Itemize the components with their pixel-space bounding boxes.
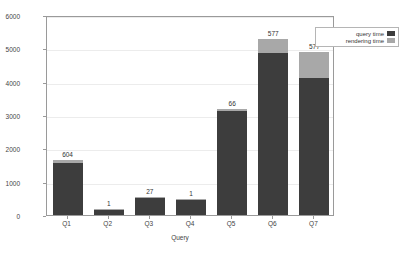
x-tick-mark xyxy=(190,216,191,219)
bar-segment-rendering-time xyxy=(53,160,83,163)
y-tick-label: 5000 xyxy=(0,46,20,53)
legend: query time rendering time xyxy=(315,27,399,47)
bar-value-label: 66 xyxy=(229,100,236,107)
bar-value-label: 27 xyxy=(146,188,153,195)
x-tick-mark xyxy=(231,216,232,219)
legend-label-query-time: query time xyxy=(356,31,384,37)
plot-area: 604127166577577 query time rendering tim… xyxy=(46,16,334,216)
bar-q1[interactable]: 604 xyxy=(53,15,83,215)
bar-segment-query-time xyxy=(94,209,124,215)
x-tick-label-q1: Q1 xyxy=(47,220,87,227)
x-tick-label-q3: Q3 xyxy=(129,220,169,227)
x-tick-label-q7: Q7 xyxy=(293,220,333,227)
bar-segment-query-time xyxy=(258,53,288,215)
bar-q2[interactable]: 1 xyxy=(94,15,124,215)
bar-q4[interactable]: 1 xyxy=(176,15,206,215)
bar-value-label: 604 xyxy=(62,151,73,158)
bar-segment-rendering-time xyxy=(176,199,206,200)
bar-segment-rendering-time xyxy=(217,109,247,111)
x-tick-label-q5: Q5 xyxy=(211,220,251,227)
legend-label-rendering-time: rendering time xyxy=(346,38,384,44)
y-tick-label: 4000 xyxy=(0,79,20,86)
bar-segment-rendering-time xyxy=(135,197,165,198)
bar-segment-rendering-time xyxy=(258,39,288,53)
bar-segment-rendering-time xyxy=(299,52,329,77)
bar-segment-query-time xyxy=(299,78,329,215)
bar-q3[interactable]: 27 xyxy=(135,15,165,215)
y-tick-label: 6000 xyxy=(0,13,20,20)
bar-segment-query-time xyxy=(176,200,206,215)
x-tick-mark xyxy=(313,216,314,219)
bar-value-label: 1 xyxy=(107,200,111,207)
bar-value-label: 1 xyxy=(189,190,193,197)
y-tick-label: 0 xyxy=(0,213,20,220)
x-tick-label-q6: Q6 xyxy=(252,220,292,227)
x-tick-label-q2: Q2 xyxy=(88,220,128,227)
y-tick-mark xyxy=(43,216,46,217)
bar-segment-query-time xyxy=(53,163,83,215)
x-tick-mark xyxy=(272,216,273,219)
bar-q6[interactable]: 577 xyxy=(258,15,288,215)
bar-segment-rendering-time xyxy=(94,209,124,210)
bar-q5[interactable]: 66 xyxy=(217,15,247,215)
bar-segment-query-time xyxy=(135,198,165,215)
bar-value-label: 577 xyxy=(268,30,279,37)
query-swatch xyxy=(387,31,395,36)
x-tick-mark xyxy=(108,216,109,219)
x-tick-mark xyxy=(67,216,68,219)
y-tick-label: 2000 xyxy=(0,146,20,153)
x-tick-label-q4: Q4 xyxy=(170,220,210,227)
x-tick-mark xyxy=(149,216,150,219)
legend-item-rendering-time: rendering time xyxy=(319,37,395,44)
y-tick-label: 1000 xyxy=(0,179,20,186)
rendering-swatch xyxy=(387,38,395,43)
y-tick-label: 3000 xyxy=(0,113,20,120)
bar-segment-query-time xyxy=(217,111,247,215)
legend-item-query-time: query time xyxy=(319,30,395,37)
x-axis-label: Query xyxy=(0,234,360,241)
